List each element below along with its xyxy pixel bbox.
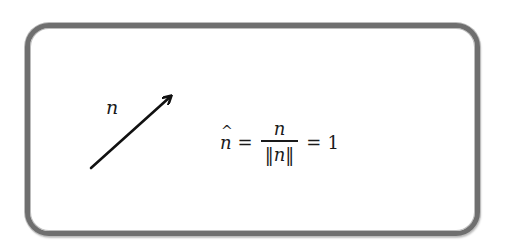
fraction-denominator: ‖n‖ <box>261 142 299 166</box>
norm-close: ‖ <box>285 144 294 165</box>
normalization-equation: ^ n = n ‖n‖ = 1 <box>220 108 339 176</box>
equals-sign-2: = <box>306 132 321 153</box>
norm-open: ‖ <box>265 144 274 165</box>
vector-label: n <box>106 98 118 117</box>
unit-vector-symbol: ^ n <box>220 132 232 153</box>
equals-sign-1: = <box>238 132 253 153</box>
result-value: 1 <box>327 132 338 153</box>
norm-var: n <box>274 144 286 165</box>
vector-line <box>91 97 170 168</box>
fraction: n ‖n‖ <box>261 119 299 166</box>
hat-accent: ^ <box>221 123 233 139</box>
fraction-numerator: n <box>270 119 290 141</box>
